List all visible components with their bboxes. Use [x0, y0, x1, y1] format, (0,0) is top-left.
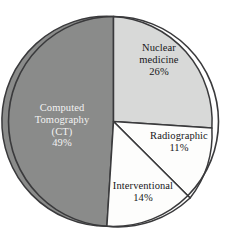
pie-value-radiographic: 11% — [136, 142, 222, 154]
pie-label-computed-tomography-line3: (CT) — [22, 126, 102, 138]
pie-label-computed-tomography-line2: Tomography — [22, 114, 102, 126]
pie-value-computed-tomography: 49% — [22, 137, 102, 149]
pie-value-nuclear-medicine: 26% — [123, 66, 195, 78]
pie-label-nuclear-medicine-line2: medicine — [123, 54, 195, 66]
pie-label-interventional: Interventional 14% — [99, 180, 187, 204]
pie-label-radiographic-line1: Radiographic — [136, 130, 222, 142]
pie-label-nuclear-medicine: Nuclear medicine 26% — [123, 42, 195, 77]
pie-label-computed-tomography-line1: Computed — [22, 102, 102, 114]
pie-chart-figure: Nuclear medicine 26% Radiographic 11% In… — [0, 0, 234, 240]
pie-label-interventional-line1: Interventional — [99, 180, 187, 192]
pie-label-nuclear-medicine-line1: Nuclear — [123, 42, 195, 54]
pie-value-interventional: 14% — [99, 192, 187, 204]
pie-label-radiographic: Radiographic 11% — [136, 130, 222, 154]
pie-label-computed-tomography: Computed Tomography (CT) 49% — [22, 102, 102, 149]
